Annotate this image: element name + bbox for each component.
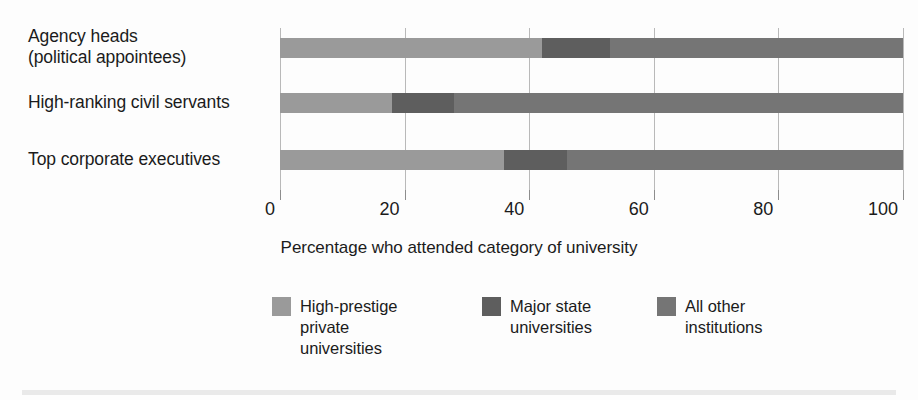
category-label-civil-servants: High-ranking civil servants — [28, 92, 264, 113]
legend-swatch-all-other — [657, 297, 676, 316]
legend-label-all-other: All other institutions — [685, 296, 762, 338]
bar-segment — [567, 150, 903, 170]
legend-item-high-prestige: High-prestige private universities — [272, 296, 482, 359]
legend-swatch-high-prestige — [272, 297, 291, 316]
bar-row — [280, 93, 903, 113]
legend-label-major-state: Major state universities — [510, 296, 592, 338]
chart-figure: Agency heads (political appointees) High… — [0, 0, 918, 400]
bar-row — [280, 150, 903, 170]
bar-segment — [542, 38, 611, 58]
x-axis-tick-labels: 020406080100 — [0, 198, 918, 224]
gridline-100 — [903, 28, 904, 190]
bar-segment — [280, 93, 392, 113]
x-tick-label-100: 100 — [868, 198, 903, 220]
bar-segment — [280, 150, 504, 170]
bar-segment — [610, 38, 903, 58]
x-tick-label-20: 20 — [380, 198, 405, 220]
category-axis-labels: Agency heads (political appointees) High… — [0, 0, 272, 200]
bar-segment — [280, 38, 542, 58]
bar-segment — [392, 93, 454, 113]
category-label-corporate-executives: Top corporate executives — [28, 149, 264, 170]
legend-swatch-major-state — [482, 297, 501, 316]
legend-label-high-prestige: High-prestige private universities — [300, 296, 397, 359]
category-label-agency-heads: Agency heads (political appointees) — [28, 26, 264, 68]
bar-segment — [454, 93, 903, 113]
chart-legend: High-prestige private universities Major… — [272, 296, 872, 359]
x-tick-label-0: 0 — [265, 198, 280, 220]
bar-segment — [504, 150, 566, 170]
legend-item-all-other: All other institutions — [657, 296, 827, 338]
x-tick-label-60: 60 — [629, 198, 654, 220]
bottom-divider — [22, 390, 896, 395]
x-tick-label-40: 40 — [504, 198, 529, 220]
x-axis-title: Percentage who attended category of univ… — [0, 238, 918, 258]
plot-area — [280, 28, 903, 190]
bar-row — [280, 38, 903, 58]
x-tick-label-80: 80 — [753, 198, 778, 220]
legend-item-major-state: Major state universities — [482, 296, 657, 338]
